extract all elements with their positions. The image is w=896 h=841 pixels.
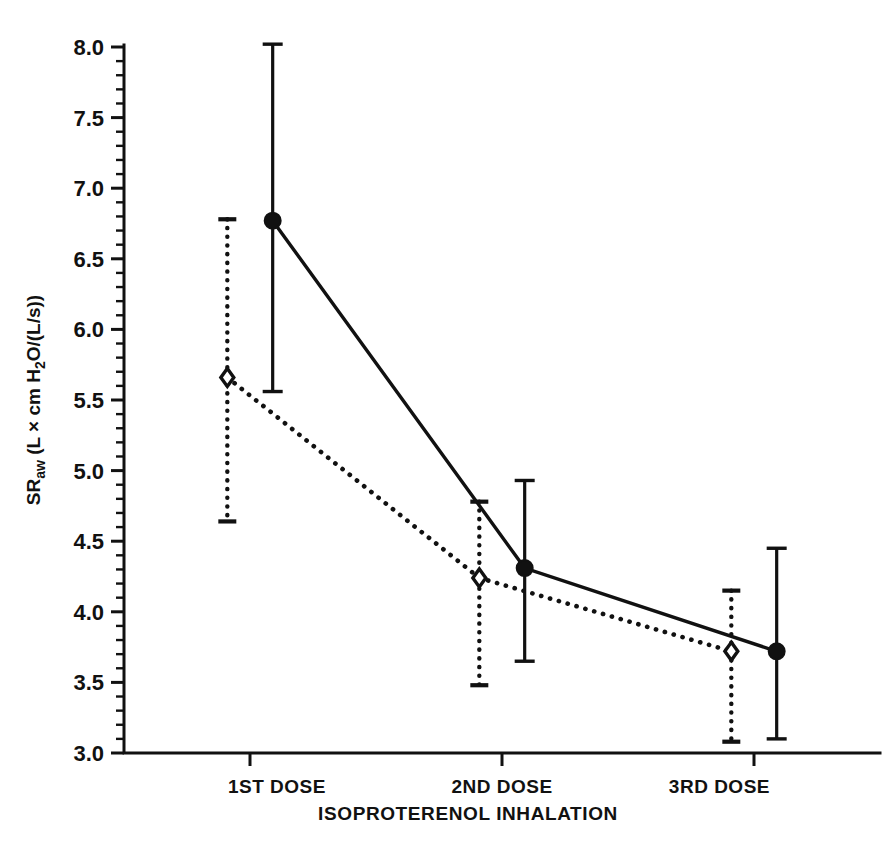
isoproterenol-srraw-line-chart: 8.07.57.06.56.05.55.04.54.03.53.0 1ST DO… — [0, 0, 896, 841]
y-axis-tick-label: 7.0 — [73, 176, 104, 201]
data-point-open-diamond — [473, 569, 486, 587]
series-open-diamond-dotted — [218, 219, 740, 741]
chart-figure: 8.07.57.06.56.05.55.04.54.03.53.0 1ST DO… — [0, 0, 896, 841]
chart-series — [218, 44, 786, 742]
y-axis-tick-label: 6.5 — [73, 247, 104, 272]
y-axis-title-prefix: SR — [23, 479, 44, 506]
data-point-filled-circle — [769, 643, 785, 659]
y-axis-tick-label: 8.0 — [73, 35, 104, 60]
y-axis-tick-label: 3.5 — [73, 670, 104, 695]
data-point-open-diamond — [221, 368, 234, 386]
y-axis-tick-labels: 8.07.57.06.56.05.55.04.54.03.53.0 — [73, 35, 104, 766]
y-axis-tick-label: 6.0 — [73, 317, 104, 342]
x-axis-tick-label: 1ST DOSE — [228, 776, 326, 797]
data-point-filled-circle — [265, 213, 281, 229]
x-axis-tick-labels: 1ST DOSE2ND DOSE3RD DOSE — [228, 776, 770, 797]
series-filled-circle-solid — [263, 44, 787, 739]
y-axis-tick-label: 3.0 — [73, 741, 104, 766]
x-axis-tick-label: 2ND DOSE — [451, 776, 552, 797]
y-axis-tick-label: 4.0 — [73, 600, 104, 625]
y-axis-title: SRaw (L × cm H2O/(L/s)) — [23, 295, 48, 505]
data-point-open-diamond — [725, 642, 738, 660]
svg-text:SRaw (L × cm H2O/(L/s)): SRaw (L × cm H2O/(L/s)) — [23, 295, 48, 505]
data-point-filled-circle — [517, 560, 533, 576]
y-axis-tick-label: 5.0 — [73, 459, 104, 484]
y-axis-tick-label: 5.5 — [73, 388, 104, 413]
x-axis-tick-label: 3RD DOSE — [669, 776, 770, 797]
chart-axes — [111, 45, 880, 766]
y-axis-tick-label: 7.5 — [73, 106, 104, 131]
x-axis-title: ISOPROTERENOL INHALATION — [318, 803, 618, 824]
y-axis-tick-label: 4.5 — [73, 529, 104, 554]
